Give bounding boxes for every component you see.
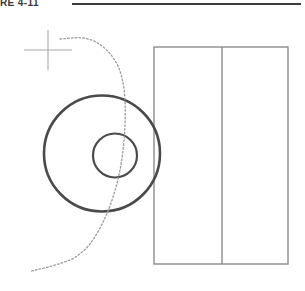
outer-circle-shape — [44, 96, 160, 212]
inner-circle-shape — [93, 134, 137, 178]
figure-page: RE 4-11 — [0, 0, 305, 291]
divided-rectangle-shape — [154, 47, 288, 264]
figure-canvas — [0, 0, 305, 291]
